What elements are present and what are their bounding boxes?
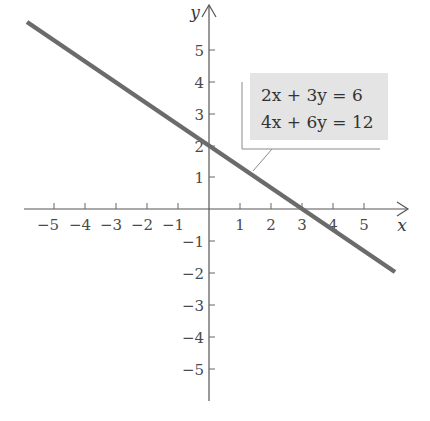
y-tick-label: −3 (182, 297, 204, 315)
x-tick-label: −5 (37, 216, 59, 234)
y-tick-labels: 5 4 3 2 1 −1 −2 −3 −4 −5 (182, 42, 204, 379)
y-tick-label: −5 (182, 361, 204, 379)
y-tick-label: −2 (182, 265, 204, 283)
x-tick-label: −1 (162, 216, 184, 234)
y-axis-label: y (189, 2, 200, 22)
equation-2: 4x + 6y = 12 (261, 112, 374, 132)
callout-leader-line (253, 149, 272, 171)
x-tick-label: 3 (297, 216, 307, 234)
y-tick-label: 1 (194, 169, 204, 187)
equation-callout: 2x + 3y = 6 4x + 6y = 12 (242, 73, 388, 171)
y-tick-label: 3 (194, 106, 204, 124)
y-tick-label: −4 (182, 329, 204, 347)
y-tick-label: 5 (194, 42, 204, 60)
x-tick-label: 1 (235, 216, 245, 234)
coordinate-graph: −5 −4 −3 −2 −1 1 2 3 4 5 x 5 4 3 2 1 −1 … (0, 0, 430, 421)
y-tick-label: −1 (182, 233, 204, 251)
x-tick-label: −3 (100, 216, 122, 234)
x-tick-label: −2 (131, 216, 153, 234)
y-tick-label: 4 (194, 74, 204, 92)
x-axis-label: x (397, 215, 407, 235)
x-tick-label: 5 (359, 216, 369, 234)
x-tick-label: 2 (266, 216, 276, 234)
equation-1: 2x + 3y = 6 (261, 85, 363, 105)
axes (24, 5, 408, 401)
equation-line (27, 22, 395, 272)
x-tick-label: −4 (69, 216, 91, 234)
